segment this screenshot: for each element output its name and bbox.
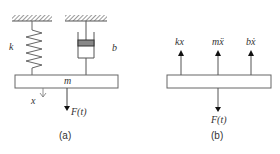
damper [78,21,94,75]
panel-a: k b m x F(t) (a) [9,15,118,141]
spring-force-arrow-icon [178,50,184,75]
displacement-arrow-icon [40,88,46,97]
spring-label: k [9,41,14,52]
inertial-force-arrow-icon [215,50,221,75]
spring [26,21,42,75]
panel-b: kx mẍ bẋ F(t) (b) [167,36,271,141]
damper-label: b [112,42,117,53]
spring-force-label: kx [175,36,184,47]
inertial-force-label: mẍ [212,36,224,47]
caption-b: (b) [211,130,223,141]
mass-label: m [64,75,71,86]
free-body-block [167,75,271,88]
force-arrow-icon [64,88,70,111]
ground-damper [65,15,107,21]
force-label: F(t) [70,106,87,118]
applied-force-arrow-icon [215,88,221,112]
damping-force-arrow-icon [248,50,254,75]
caption-a: (a) [59,130,71,141]
mass-spring-damper-diagram: k b m x F(t) (a) [0,0,280,154]
damping-force-label: bẋ [246,36,256,47]
applied-force-label: F(t) [210,114,227,126]
displacement-label: x [30,95,36,106]
ground-spring [12,15,52,21]
